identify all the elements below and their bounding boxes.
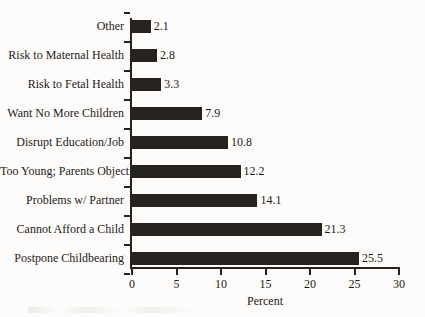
bar xyxy=(132,136,228,149)
bar-value-label: 2.1 xyxy=(154,20,169,33)
bar-value-label: 7.9 xyxy=(205,107,220,120)
value-axis-tick-label: 20 xyxy=(290,277,330,291)
category-label: Risk to Maternal Health xyxy=(0,49,124,62)
value-axis-tick-label: 15 xyxy=(246,277,286,291)
bar xyxy=(132,20,151,33)
category-label: Too Young; Parents Object xyxy=(0,165,124,178)
bar xyxy=(132,252,359,265)
plot-area: 2.1Other2.8Risk to Maternal Health3.3Ris… xyxy=(0,0,425,317)
category-axis-tick xyxy=(124,215,130,217)
bar-value-label: 10.8 xyxy=(231,136,252,149)
category-label: Cannot Afford a Child xyxy=(0,223,124,236)
bar xyxy=(132,107,202,120)
bar xyxy=(132,194,257,207)
category-axis-tick xyxy=(124,12,130,14)
bar-value-label: 3.3 xyxy=(164,78,179,91)
category-label: Other xyxy=(0,20,124,33)
value-axis-tick xyxy=(131,269,133,275)
bar-value-label: 14.1 xyxy=(260,194,281,207)
category-axis-tick xyxy=(124,273,130,275)
bar-value-label: 25.5 xyxy=(362,252,383,265)
value-axis-tick-label: 25 xyxy=(335,277,375,291)
value-axis-tick xyxy=(176,269,178,275)
bar xyxy=(132,49,157,62)
value-axis-tick-label: 0 xyxy=(112,277,152,291)
value-axis-tick xyxy=(265,269,267,275)
category-axis-tick xyxy=(124,70,130,72)
category-label: Risk to Fetal Health xyxy=(0,78,124,91)
bar-value-label: 21.3 xyxy=(325,223,346,236)
category-axis-tick xyxy=(124,186,130,188)
bar-value-label: 12.2 xyxy=(244,165,265,178)
category-label: Want No More Children xyxy=(0,107,124,120)
value-axis-tick xyxy=(220,269,222,275)
category-axis-tick xyxy=(124,244,130,246)
category-axis-tick xyxy=(124,99,130,101)
category-axis-tick xyxy=(124,41,130,43)
bar xyxy=(132,78,161,91)
bar-value-label: 2.8 xyxy=(160,49,175,62)
category-axis-tick xyxy=(124,128,130,130)
bar-chart-figure: 2.1Other2.8Risk to Maternal Health3.3Ris… xyxy=(0,0,425,317)
value-axis-tick-label: 5 xyxy=(157,277,197,291)
value-axis-tick-label: 10 xyxy=(201,277,241,291)
bar xyxy=(132,223,322,236)
x-axis-title: Percent xyxy=(130,294,400,308)
category-label: Disrupt Education/Job xyxy=(0,136,124,149)
value-axis-tick xyxy=(309,269,311,275)
value-axis-tick-label: 30 xyxy=(379,277,419,291)
value-axis-tick xyxy=(354,269,356,275)
value-axis-tick xyxy=(398,269,400,275)
category-label: Problems w/ Partner xyxy=(0,194,124,207)
bar xyxy=(132,165,241,178)
category-label: Postpone Childbearing xyxy=(0,252,124,265)
category-axis-tick xyxy=(124,157,130,159)
